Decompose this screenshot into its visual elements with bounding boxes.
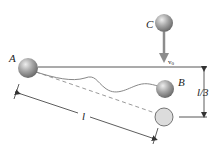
length-dimension-arrow-1	[18, 93, 78, 113]
ball-a-label: A	[8, 52, 16, 64]
dashed-taut-string	[36, 72, 158, 114]
ball-b-label: B	[178, 76, 185, 88]
length-tick-b	[153, 128, 158, 144]
ball-c-label: C	[146, 18, 154, 30]
slack-string	[36, 72, 158, 92]
drop-dimension-label: l/3	[197, 86, 209, 98]
ball-c	[155, 14, 173, 32]
pendulum-diagram: l/3 l A B C v0	[0, 0, 217, 155]
length-label: l	[82, 110, 85, 122]
length-tick-a	[14, 84, 19, 99]
velocity-label: v0	[168, 58, 175, 66]
length-dimension-arrow-2	[90, 117, 155, 139]
ball-a	[18, 58, 38, 78]
ghost-ball	[155, 108, 173, 126]
ball-b	[156, 80, 174, 98]
